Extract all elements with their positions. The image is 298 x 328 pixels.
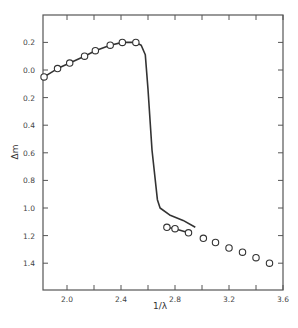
x-tick-label: 3.2: [223, 295, 235, 304]
data-point: [266, 260, 272, 266]
data-point: [81, 53, 87, 59]
y-tick-label: 0.2: [23, 94, 35, 103]
data-point: [67, 60, 73, 66]
data-point: [164, 224, 170, 230]
x-tick-label: 2.4: [115, 295, 127, 304]
data-point: [119, 39, 125, 45]
x-tick-label: 2.8: [169, 295, 181, 304]
y-tick-label: 0.2: [23, 38, 35, 47]
y-tick-label: 1.4: [23, 259, 35, 268]
data-point: [107, 42, 113, 48]
data-point: [41, 74, 47, 80]
data-point: [239, 249, 245, 255]
chart: 2.02.42.83.23.6 0.20.00.20.40.60.81.01.2…: [0, 0, 298, 328]
y-tick-label: 0.0: [23, 66, 35, 75]
data-point: [212, 239, 218, 245]
plot-lines: [44, 42, 195, 232]
data-point: [54, 65, 60, 71]
data-points: [41, 39, 273, 266]
x-tick-label: 3.6: [277, 295, 289, 304]
data-point: [185, 230, 191, 236]
data-point: [172, 226, 178, 232]
x-axis-label: 1/λ: [153, 301, 168, 311]
data-point: [253, 254, 259, 260]
y-tick-label: 0.6: [23, 149, 35, 158]
data-point: [133, 39, 139, 45]
y-axis-label: Δm: [10, 145, 20, 160]
axes-frame: [43, 15, 283, 290]
x-tick-label: 2.0: [61, 295, 73, 304]
y-tick-label: 1.2: [23, 232, 35, 241]
y-tick-label: 0.8: [23, 176, 35, 185]
y-tick-label: 0.4: [23, 121, 35, 130]
curve-model-curve: [136, 42, 196, 227]
data-point: [92, 47, 98, 53]
data-point: [200, 235, 206, 241]
data-point: [226, 245, 232, 251]
y-tick-label: 1.0: [23, 204, 35, 213]
